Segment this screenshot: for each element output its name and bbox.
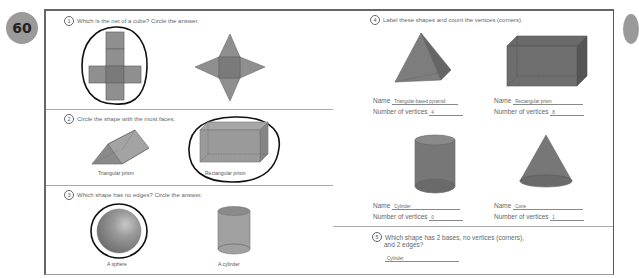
q4-item4-vertices-answer[interactable]: 1 [550,215,584,221]
q4-text: Label these shapes and count the vertice… [383,17,523,23]
q4-item1-vertices-answer[interactable]: 4 [429,110,463,116]
q2-prompt: 2 Circle the shape with the most faces. [64,114,175,124]
q1-number: 1 [64,16,74,26]
divider-q2-q3 [46,185,333,186]
name-label: Name [373,202,390,209]
sphere-icon [88,202,150,264]
q3-text: Which shape has no edges? Circle the ans… [77,192,202,198]
cylinder-small-icon [216,206,252,256]
divider-q1-q2 [46,109,333,110]
box-icon [505,34,589,88]
q3-prompt: 3 Which shape has no edges? Circle the a… [64,190,202,200]
q4-item1-vertices-row: Number of vertices 4 [373,108,463,116]
pyramid-icon [393,32,453,86]
q5-answer[interactable]: Cylinder [385,256,459,262]
divider-q4-q5 [333,226,613,227]
q1-text: Which is the net of a cube? Circle the a… [77,18,199,24]
next-page-badge [623,14,639,44]
q5-text-line2: and 2 edges? [384,241,423,248]
q4-prompt: 4 Label these shapes and count the verti… [370,15,523,25]
q4-item2-vertices-answer[interactable]: 8 [550,110,584,116]
vertices-label: Number of vertices [373,213,428,220]
q4-item3-name-row: Name Cylinder [373,202,460,210]
q4-item2-name-answer[interactable]: Rectangular prism [513,99,583,105]
q5-answer-row: Cylinder [385,254,459,262]
name-label: Name [373,97,390,104]
q2-number: 2 [64,114,74,124]
cone-icon [519,134,573,190]
q4-item3-vertices-row: Number of vertices 0 [373,213,463,221]
q4-item2-vertices-row: Number of vertices 8 [494,108,584,116]
q4-item3-vertices-answer[interactable]: 0 [429,215,463,221]
triangular-prism-icon [90,128,150,168]
q3-number: 3 [64,190,74,200]
name-label: Name [494,97,511,104]
vertices-label: Number of vertices [494,213,549,220]
q2-caption-rectangular-prism: Rectangular prism [205,170,246,176]
q4-item4-vertices-row: Number of vertices 1 [494,213,584,221]
q4-number: 4 [370,15,380,25]
q4-item4-name-answer[interactable]: Cone [513,204,583,210]
q4-item1-name-answer[interactable]: Triangular-based pyramid [392,99,458,105]
vertices-label: Number of vertices [373,108,428,115]
q1-prompt: 1 Which is the net of a cube? Circle the… [64,16,199,26]
q5-text-line1: Which shape has 2 bases, no vertices (co… [385,234,524,241]
star-net-icon [195,34,265,102]
q5-prompt-line2: and 2 edges? [384,241,423,248]
q5-number: 5 [372,232,382,242]
q3-caption-cylinder: A cylinder [218,261,240,267]
q4-item3-name-answer[interactable]: Cylinder [392,204,460,210]
q4-item4-name-row: Name Cone [494,202,583,210]
q3-caption-sphere: A sphere [107,261,127,267]
q2-caption-triangular-prism: Triangular prism [98,170,134,176]
vertices-label: Number of vertices [494,108,549,115]
page-number: 60 [12,20,31,36]
cylinder-icon [413,134,457,196]
q4-item2-name-row: Name Rectangular prism [494,97,583,105]
cube-net-cross-icon [80,26,150,106]
q4-item1-name-row: Name Triangular-based pyramid [373,97,458,105]
name-label: Name [494,202,511,209]
q2-text: Circle the shape with the most faces. [77,116,175,122]
page-number-badge: 60 [6,12,38,44]
